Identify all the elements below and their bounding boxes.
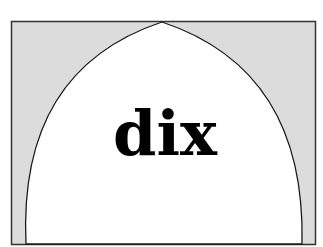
arch-diagram: dix	[0, 0, 323, 247]
arch-label: dix	[113, 97, 218, 170]
